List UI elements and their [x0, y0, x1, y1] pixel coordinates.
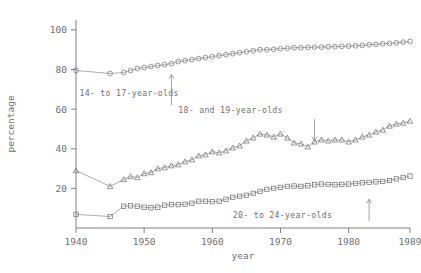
series-annotation-label: 14- to 17-year-olds	[79, 88, 178, 98]
x-tick-label: 1980	[337, 236, 360, 247]
y-tick-label: 60	[56, 104, 68, 115]
y-tick-label: 100	[50, 24, 67, 35]
x-tick-label: 1940	[65, 236, 88, 247]
series-annotation-label: 18- and 19-year-olds	[178, 105, 283, 115]
x-tick-label: 1950	[133, 236, 156, 247]
y-axis-title: percentage	[5, 95, 16, 152]
chart-container: 20406080100194019501960197019801989yearp…	[0, 0, 421, 273]
y-tick-label: 20	[56, 183, 68, 194]
series-line	[76, 121, 410, 186]
series-annotation-label: 20- to 24-year-olds	[233, 210, 332, 220]
x-tick-label: 1970	[269, 236, 292, 247]
y-tick-label: 80	[56, 64, 68, 75]
y-tick-label: 40	[56, 143, 68, 154]
x-tick-label: 1960	[201, 236, 224, 247]
x-tick-label: 1989	[399, 236, 421, 247]
line-chart: 20406080100194019501960197019801989yearp…	[0, 0, 421, 273]
x-axis-title: year	[232, 250, 255, 261]
data-point-triangle	[407, 118, 413, 123]
